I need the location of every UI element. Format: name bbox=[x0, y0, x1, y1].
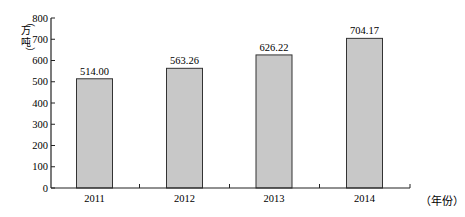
y-tick-label: 300 bbox=[32, 119, 48, 130]
x-tick-label: 2011 bbox=[84, 193, 105, 204]
bar-2011 bbox=[77, 79, 113, 188]
y-tick-label: 400 bbox=[32, 98, 48, 109]
svg-text:万: 万 bbox=[21, 25, 31, 36]
bar-value-label: 514.00 bbox=[80, 66, 109, 77]
x-tick-label: 2013 bbox=[264, 193, 285, 204]
x-axis-label: （年份） bbox=[420, 194, 464, 207]
bar-2012 bbox=[167, 68, 203, 188]
bar-value-label: 704.17 bbox=[350, 25, 379, 36]
bars: 514.00563.26626.22704.17 bbox=[77, 25, 383, 188]
svg-text:）: ） bbox=[24, 47, 35, 57]
y-tick-label: 700 bbox=[32, 34, 48, 45]
y-tick-label: 200 bbox=[32, 140, 48, 151]
x-tick-label: 2012 bbox=[174, 193, 195, 204]
bar-value-label: 626.22 bbox=[260, 42, 289, 53]
y-tick-label: 100 bbox=[32, 161, 48, 172]
y-tick-label: 500 bbox=[32, 76, 48, 87]
x-tick-label: 2014 bbox=[354, 193, 376, 204]
y-tick-label: 0 bbox=[43, 183, 48, 194]
bar-2013 bbox=[256, 55, 292, 188]
bar-value-label: 563.26 bbox=[170, 55, 199, 66]
bar-chart: 0100200300400500600700800 514.00563.2662… bbox=[0, 0, 465, 217]
bar-2014 bbox=[347, 38, 383, 188]
